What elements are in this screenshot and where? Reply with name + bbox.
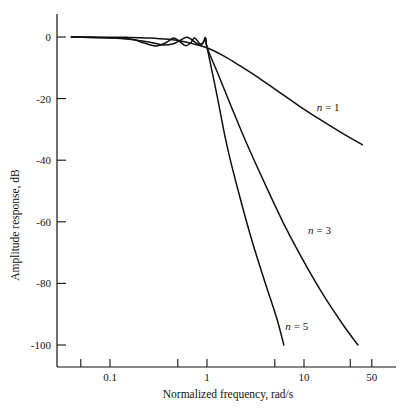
x-tick-label: 50 — [366, 371, 378, 383]
curve-label-n-1: n= 1 — [317, 101, 340, 113]
x-tick-label: 10 — [299, 371, 311, 383]
response-curve-n-1 — [71, 37, 362, 145]
x-axis-ticks: 0.111050 — [81, 359, 378, 383]
y-axis-ticks: 0-20-40-60-80-100 — [31, 31, 66, 351]
y-tick-label: 0 — [46, 31, 52, 43]
curve-label-n-5: n= 5 — [285, 320, 308, 332]
amplitude-response-chart: 0-20-40-60-80-100 0.111050 n= 1n= 3n= 5 … — [0, 0, 410, 411]
chart-figure: 0-20-40-60-80-100 0.111050 n= 1n= 3n= 5 … — [0, 0, 410, 411]
x-tick-label: 1 — [204, 371, 210, 383]
y-tick-label: -40 — [36, 154, 51, 166]
y-tick-label: -80 — [36, 277, 51, 289]
axis-lines — [57, 14, 396, 367]
response-curves — [71, 37, 362, 345]
response-curve-n-5 — [71, 37, 283, 345]
y-tick-label: -20 — [36, 93, 51, 105]
curve-label-n-3: n= 3 — [308, 224, 331, 236]
y-axis-title: Amplitude response, dB — [9, 169, 22, 281]
curve-annotations: n= 1n= 3n= 5 — [285, 101, 339, 332]
y-tick-label: -100 — [31, 339, 52, 351]
x-tick-label: 0.1 — [103, 371, 117, 383]
y-tick-label: -60 — [36, 216, 51, 228]
x-axis-title: Normalized frequency, rad/s — [163, 388, 294, 401]
